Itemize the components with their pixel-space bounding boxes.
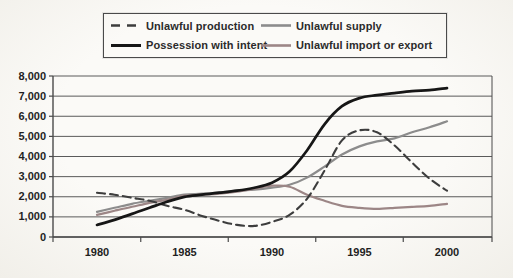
x-axis-labels: 19801985199019952000 [85,246,459,258]
y-tick-label: 6,000 [18,110,46,122]
gridlines [53,76,492,237]
line-chart: 01,0002,0003,0004,0005,0006,0007,0008,00… [0,0,513,278]
y-axis-labels: 01,0002,0003,0004,0005,0006,0007,0008,00… [18,70,46,243]
y-tick-label: 4,000 [18,150,46,162]
y-tick-label: 0 [40,231,46,243]
x-tick-label: 1990 [260,246,284,258]
y-tick-label: 1,000 [18,210,46,222]
scanned-figure: Unlawful production Unlawful supply Poss… [0,0,513,278]
series-line-unlawful-supply [97,121,447,212]
x-tick-label: 1995 [347,246,371,258]
x-tick-label: 1980 [85,246,109,258]
y-tick-label: 5,000 [18,130,46,142]
x-tick-label: 2000 [435,246,459,258]
y-tick-label: 8,000 [18,70,46,82]
x-tick-label: 1985 [172,246,196,258]
series-lines [97,88,447,226]
y-tick-label: 3,000 [18,170,46,182]
series-line-unlawful-production [97,130,447,226]
y-tick-label: 2,000 [18,190,46,202]
y-tick-label: 7,000 [18,90,46,102]
